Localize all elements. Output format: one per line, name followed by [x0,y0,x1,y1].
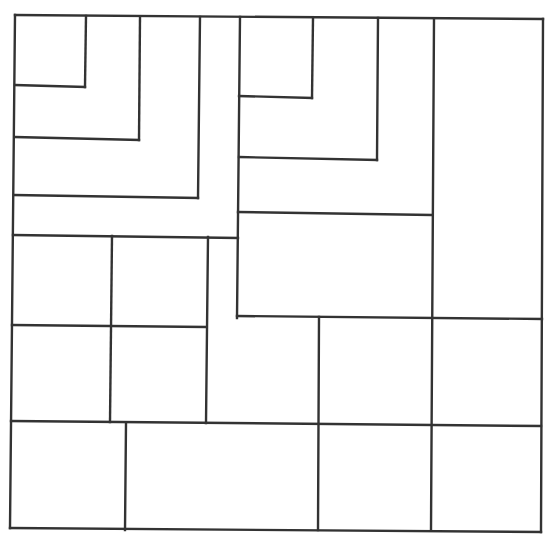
line-tl-sq1-v [85,16,86,87]
line-bottom-v-1 [125,423,126,530]
line-tr-sq1-h [239,96,312,98]
line-tl-sq3-h [14,195,198,198]
line-mid-h-right [237,316,542,319]
line-outer-right [541,19,543,532]
line-outer-bottom [10,528,541,532]
line-mid-h-left [12,325,206,327]
line-tr-sq3-v [431,19,434,530]
line-outer-top [15,15,543,19]
line-tr-sq3-h [238,212,431,215]
line-tl-sq4-v [237,17,240,318]
line-tl-sq3-v [198,17,200,198]
line-bottom-h [11,421,541,426]
line-outer-left [10,15,15,528]
line-tl-sq4-h [13,235,238,238]
line-mid-v-2 [206,237,208,423]
subdivided-square-diagram [0,0,552,545]
line-mid-v-1 [110,236,112,422]
line-tl-sq1-h [15,85,85,87]
diagram-lines [10,15,543,532]
line-tl-sq2-h [15,137,139,140]
line-tr-sq1-v [312,18,313,98]
line-tr-sq2-v [377,18,378,160]
line-tl-sq2-v [139,17,140,140]
line-tr-sq2-h [239,157,377,160]
